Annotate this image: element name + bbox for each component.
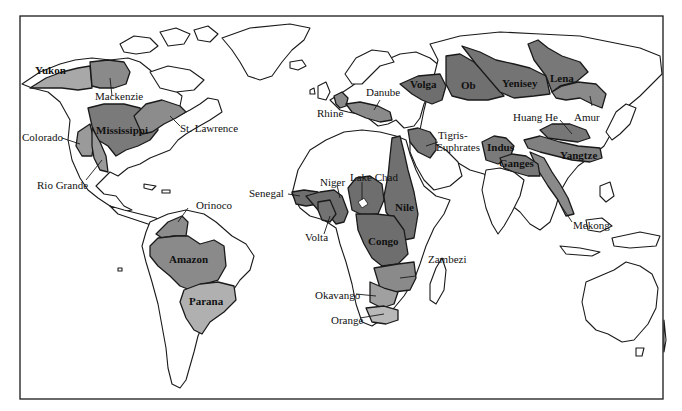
mackenzie-basin <box>90 60 130 88</box>
label-lake-chad: Lake Chad <box>350 172 398 183</box>
label-amur: Amur <box>574 112 600 123</box>
label-euphrates: Euphrates <box>436 142 480 153</box>
arctic-islands <box>120 26 218 54</box>
label-huang-he: Huang He <box>513 112 558 123</box>
label-ob: Ob <box>461 80 476 91</box>
label-yenisey: Yenisey <box>502 78 537 89</box>
label-parana: Parana <box>189 296 223 307</box>
label-congo: Congo <box>368 236 399 247</box>
british-isles <box>310 82 330 100</box>
label-mississippi: Mississippi <box>96 125 148 136</box>
label-zambezi: Zambezi <box>428 254 466 265</box>
small-islands <box>118 268 122 271</box>
world-river-basins-map: Yukon Mackenzie Mississippi St. Lawrence… <box>0 0 682 411</box>
label-senegal: Senegal <box>249 188 284 199</box>
label-tigris: Tigris- <box>438 130 468 141</box>
label-danube: Danube <box>366 87 400 98</box>
label-lena: Lena <box>550 73 574 84</box>
label-rio-grande: Rio Grande <box>37 180 88 191</box>
australia <box>582 262 658 342</box>
label-volga: Volga <box>410 79 437 90</box>
label-st-lawrence: St. Lawrence <box>180 123 238 134</box>
caribbean-islands <box>144 184 170 193</box>
label-okavango: Okavango <box>315 290 360 301</box>
new-zealand <box>664 320 666 352</box>
label-orinoco: Orinoco <box>196 200 232 211</box>
label-colorado: Colorado <box>22 132 63 143</box>
label-ganges: Ganges <box>499 158 534 169</box>
india <box>482 168 524 234</box>
tasmania <box>636 348 644 356</box>
label-orange: Orange <box>331 315 363 326</box>
label-yukon: Yukon <box>35 65 66 76</box>
label-amazon: Amazon <box>169 254 208 265</box>
label-yangtze: Yangtze <box>560 150 597 161</box>
label-niger: Niger <box>320 177 345 188</box>
label-mackenzie: Mackenzie <box>95 91 143 102</box>
iceland <box>290 60 306 70</box>
label-rhine: Rhine <box>317 108 343 119</box>
greenland <box>222 24 310 80</box>
label-volta: Volta <box>305 232 328 243</box>
map-canvas <box>0 0 682 411</box>
label-mekong: Mekong <box>573 220 610 231</box>
label-indus: Indus <box>487 142 514 153</box>
label-nile: Nile <box>395 202 414 213</box>
